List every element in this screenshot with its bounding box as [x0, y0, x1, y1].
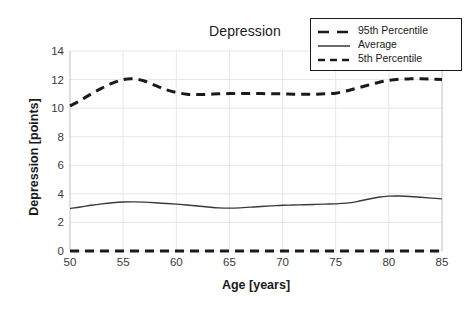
y-tick-label: 12	[40, 74, 64, 86]
legend-item[interactable]: 95th Percentile	[317, 23, 455, 36]
y-tick-label: 2	[40, 216, 64, 228]
legend-label: 95th Percentile	[358, 24, 428, 36]
plot-canvas	[70, 51, 442, 251]
y-axis-tick-labels: 02468101214	[38, 51, 64, 251]
x-tick-label: 65	[209, 256, 249, 268]
x-tick-label: 60	[156, 256, 196, 268]
x-tick-label: 55	[103, 256, 143, 268]
x-tick-label: 85	[422, 256, 462, 268]
y-tick-label: 8	[40, 131, 64, 143]
chart-figure: Depression Depression [points] Age [year…	[0, 0, 475, 310]
legend-item[interactable]: 5th Percentile	[317, 51, 455, 64]
y-tick-label: 14	[40, 45, 64, 57]
legend-swatch-dashed-icon	[317, 24, 351, 36]
plot-area	[70, 51, 442, 251]
series-line-1	[70, 196, 442, 208]
y-tick-label: 4	[40, 188, 64, 200]
gridlines	[70, 51, 442, 251]
plot-frame	[70, 51, 442, 251]
x-tick-label: 50	[50, 256, 90, 268]
x-tick-label: 80	[369, 256, 409, 268]
legend-label: 5th Percentile	[358, 52, 422, 64]
legend-swatch-dashed-icon	[317, 52, 351, 64]
x-tick-label: 75	[316, 256, 356, 268]
legend-item[interactable]: Average	[317, 37, 455, 50]
chart-legend: 95th PercentileAverage5th Percentile	[310, 18, 462, 71]
series-line-0	[70, 79, 442, 106]
x-tick-label: 70	[263, 256, 303, 268]
x-axis-title: Age [years]	[70, 278, 442, 292]
legend-label: Average	[358, 38, 397, 50]
y-tick-label: 10	[40, 102, 64, 114]
y-tick-label: 6	[40, 159, 64, 171]
legend-swatch-solid-icon	[317, 38, 351, 50]
x-axis-tick-labels: 5055606570758085	[70, 256, 442, 274]
